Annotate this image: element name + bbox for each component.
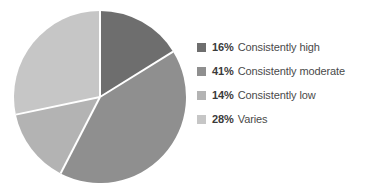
legend-label: Consistently low — [238, 89, 316, 101]
legend-percent: 14% — [212, 89, 234, 101]
legend-swatch-icon — [197, 67, 206, 76]
chart-legend: 16% Consistently high 41% Consistently m… — [197, 40, 363, 126]
legend-percent: 16% — [212, 41, 234, 53]
legend-percent: 41% — [212, 65, 234, 77]
legend-item-consistently-moderate[interactable]: 41% Consistently moderate — [197, 64, 363, 78]
legend-label: Consistently moderate — [238, 65, 345, 77]
legend-swatch-icon — [197, 115, 206, 124]
legend-swatch-icon — [197, 91, 206, 100]
legend-label: Varies — [238, 113, 268, 125]
legend-item-consistently-low[interactable]: 14% Consistently low — [197, 88, 363, 102]
pie-svg — [13, 11, 187, 183]
legend-item-consistently-high[interactable]: 16% Consistently high — [197, 40, 363, 54]
legend-percent: 28% — [212, 113, 234, 125]
legend-item-varies[interactable]: 28% Varies — [197, 112, 363, 126]
legend-label: Consistently high — [238, 41, 320, 53]
pie-chart-graphic — [13, 11, 187, 183]
pie-chart-figure: 16% Consistently high 41% Consistently m… — [0, 0, 365, 192]
legend-swatch-icon — [197, 43, 206, 52]
